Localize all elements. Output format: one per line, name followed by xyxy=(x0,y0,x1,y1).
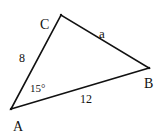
side-label-ab: 12 xyxy=(80,92,92,106)
side-label-bc: a xyxy=(99,26,105,41)
triangle-diagram: C B A a 8 12 15° xyxy=(0,0,162,133)
vertex-label-a: A xyxy=(13,119,24,133)
vertex-a-dot xyxy=(10,108,12,110)
vertex-label-c: C xyxy=(40,17,49,32)
angle-label-a: 15° xyxy=(30,82,45,94)
side-label-ac: 8 xyxy=(19,51,25,65)
vertex-b-dot xyxy=(148,67,150,69)
vertex-label-b: B xyxy=(144,76,153,91)
vertex-c-dot xyxy=(60,14,62,16)
